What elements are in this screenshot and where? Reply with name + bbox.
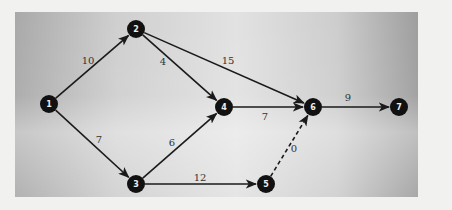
node-label: 6 [310, 103, 316, 112]
edge-weight-label: 7 [96, 134, 102, 145]
node-1: 1 [40, 95, 58, 113]
node-label: 1 [46, 100, 52, 109]
node-label: 7 [396, 103, 402, 112]
edge-weight-label: 12 [194, 172, 207, 183]
edge-weight-label: 7 [262, 111, 268, 122]
edge-weight-label: 15 [222, 55, 235, 66]
node-5: 5 [257, 175, 275, 193]
edge-weight-label: 9 [345, 92, 351, 103]
node-7: 7 [390, 98, 408, 116]
edge-weight-label: 6 [169, 137, 175, 148]
node-label: 2 [133, 25, 139, 34]
network-diagram: 107415612709 1234567 [0, 0, 452, 210]
edge-weight-label: 10 [82, 55, 95, 66]
node-label: 5 [263, 180, 269, 189]
node-label: 3 [133, 180, 139, 189]
node-2: 2 [127, 20, 145, 38]
edge-weight-label: 0 [291, 143, 297, 154]
node-6: 6 [304, 98, 322, 116]
node-4: 4 [215, 98, 233, 116]
edge-weight-label: 4 [160, 56, 166, 67]
node-3: 3 [127, 175, 145, 193]
node-label: 4 [221, 103, 227, 112]
